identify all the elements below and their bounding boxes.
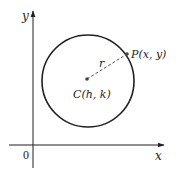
center-label: C(h, k) [73, 88, 111, 101]
center-point [85, 77, 89, 81]
point-label: P(x, y) [130, 48, 166, 61]
x-axis-label: x [155, 149, 162, 163]
circle-diagram: y x 0 r C(h, k) P(x, y) [0, 0, 177, 175]
circle [42, 35, 134, 127]
radius-label: r [99, 57, 105, 70]
point-p [125, 52, 129, 56]
y-axis-label: y [21, 9, 29, 23]
origin-label: 0 [23, 148, 29, 162]
radius-line [87, 54, 127, 79]
